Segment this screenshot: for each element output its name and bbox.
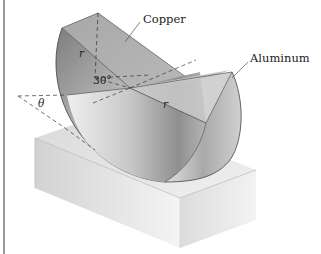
label-angle-30: 30° [93,74,112,86]
composite-cylinder-diagram: Copper Aluminum 30° θ r r [0,0,321,254]
dashed-theta-ray-upper [18,95,67,96]
label-theta: θ [38,97,45,109]
aluminum-leader-line [232,62,248,78]
label-copper: Copper [143,12,186,26]
diagram-frame: Copper Aluminum 30° θ r r [0,0,321,254]
label-aluminum: Aluminum [249,51,310,65]
